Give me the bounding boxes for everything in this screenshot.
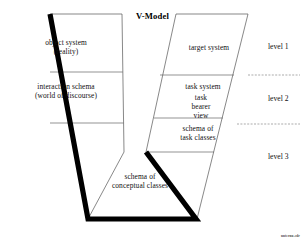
label-task-bearer-view: task bearer view	[174, 93, 228, 121]
level-label-2: level 2	[268, 94, 288, 103]
label-task-bearer-view-line3: view	[194, 111, 209, 120]
label-task-bearer-view-line2: bearer	[191, 102, 210, 111]
label-schema-task-classes-line2: task classes	[180, 133, 215, 142]
vmodel-diagram: V-Model object system (reality) interact…	[0, 0, 305, 244]
label-task-system: task system	[166, 82, 240, 91]
source-credit-text: unternu.cdr	[281, 234, 300, 238]
label-conceptual-classes-line2: conceptual classes	[112, 181, 168, 190]
label-schema-task-classes: schema of task classes	[158, 124, 238, 142]
vmodel-shape-graphic	[0, 0, 305, 244]
diagram-title: V-Model	[0, 11, 305, 21]
label-target-system-line1: target system	[189, 43, 229, 52]
label-object-system: object system (reality)	[24, 38, 108, 56]
label-conceptual-classes-line1: schema of	[124, 172, 155, 181]
label-target-system: target system	[170, 43, 248, 52]
label-object-system-line2: (reality)	[54, 47, 79, 56]
label-interaction-schema-line1: interaction schema	[37, 82, 94, 91]
level-label-3: level 3	[268, 152, 288, 161]
label-schema-task-classes-line1: schema of	[182, 124, 213, 133]
label-task-system-line1: task system	[185, 82, 220, 91]
label-interaction-schema-line2: (world of discourse)	[35, 91, 97, 100]
label-object-system-line1: object system	[45, 38, 87, 47]
label-interaction-schema: interaction schema (world of discourse)	[14, 82, 118, 100]
level-label-1: level 1	[268, 42, 288, 51]
label-conceptual-classes: schema of conceptual classes	[92, 172, 188, 190]
label-task-bearer-view-line1: task	[195, 93, 207, 102]
